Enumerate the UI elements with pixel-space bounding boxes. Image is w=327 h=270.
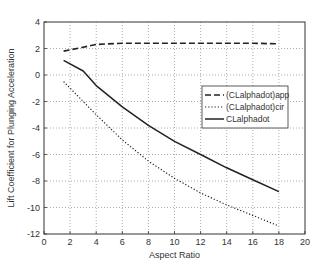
x-tick-label: 2: [68, 237, 73, 247]
y-tick-label: -4: [32, 123, 40, 133]
axis-ticks: 02468101214161820420-2-4-6-8-10-12: [27, 17, 310, 247]
y-tick-label: -2: [32, 97, 40, 107]
y-tick-label: 0: [35, 70, 40, 80]
y-tick-label: -12: [27, 229, 40, 239]
legend: (CLalphadot)app(CLalphadot)cirCLalphadot: [202, 86, 290, 128]
y-tick-label: -8: [32, 176, 40, 186]
x-tick-label: 8: [146, 237, 151, 247]
x-tick-label: 10: [169, 237, 179, 247]
legend-entry: (CLalphadot)cir: [226, 102, 284, 112]
legend-entry: CLalphadot: [226, 114, 270, 124]
x-tick-label: 6: [120, 237, 125, 247]
x-axis-label: Aspect Ratio: [149, 250, 200, 260]
y-tick-label: -10: [27, 203, 40, 213]
x-tick-label: 0: [41, 237, 46, 247]
y-tick-label: 4: [35, 17, 40, 27]
legend-entry: (CLalphadot)app: [226, 90, 290, 100]
x-tick-label: 20: [300, 237, 310, 247]
x-tick-label: 4: [94, 237, 99, 247]
y-tick-label: 2: [35, 44, 40, 54]
y-tick-label: -6: [32, 150, 40, 160]
x-tick-label: 18: [274, 237, 284, 247]
x-tick-label: 14: [222, 237, 232, 247]
y-axis-label: Lift Coefficient for Plunging Accelerati…: [6, 49, 16, 208]
x-tick-label: 16: [248, 237, 258, 247]
line-chart: 02468101214161820420-2-4-6-8-10-12 Aspec…: [0, 0, 327, 270]
x-tick-label: 12: [196, 237, 206, 247]
